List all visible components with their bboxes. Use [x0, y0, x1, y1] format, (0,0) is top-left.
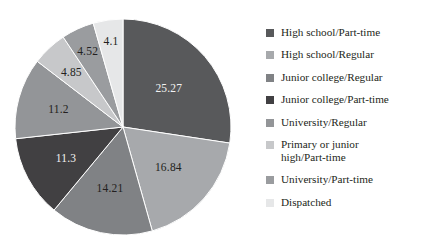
legend-item-label: Primary or junior high/Part-time	[281, 138, 359, 164]
legend-swatch-icon	[266, 51, 274, 59]
legend-item-label: Junior college/Part-time	[281, 93, 389, 106]
legend-swatch-icon	[266, 119, 274, 127]
legend-item-label: High school/Part-time	[281, 26, 380, 39]
legend-item[interactable]: University/Regular	[266, 116, 418, 129]
pie-slice-value-label: 11.3	[56, 152, 77, 164]
legend-swatch-icon	[266, 74, 274, 82]
legend-item[interactable]: Primary or junior high/Part-time	[266, 138, 418, 164]
pie-slice-value-label: 11.2	[48, 103, 69, 115]
legend-item-label: University/Part-time	[281, 173, 373, 186]
pie-slice-group	[15, 19, 231, 235]
legend-swatch-icon	[266, 141, 274, 149]
legend-item[interactable]: High school/Regular	[266, 48, 418, 61]
legend-swatch-icon	[266, 176, 274, 184]
pie-slice-value-label: 4.85	[61, 66, 82, 78]
legend-item[interactable]: Junior college/Regular	[266, 71, 418, 84]
pie-slice-value-label: 14.21	[97, 182, 124, 194]
legend-swatch-icon	[266, 199, 274, 207]
legend-item-label: University/Regular	[281, 116, 367, 129]
pie-slice-value-label: 25.27	[155, 82, 182, 94]
pie-slice-value-label: 16.84	[155, 161, 182, 173]
pie-slice-value-label: 4.1	[103, 35, 118, 47]
legend-swatch-icon	[266, 29, 274, 37]
legend-swatch-icon	[266, 96, 274, 104]
legend-item-label: Dispatched	[281, 196, 331, 209]
chart-legend: High school/Part-timeHigh school/Regular…	[266, 26, 418, 218]
legend-item-label: High school/Regular	[281, 48, 374, 61]
pie-svg: 25.2716.8414.2111.311.24.854.524.1	[13, 17, 233, 239]
pie-slice-value-label: 4.52	[77, 45, 98, 57]
legend-item-label: Junior college/Regular	[281, 71, 383, 84]
pie-chart-figure: 25.2716.8414.2111.311.24.854.524.1 High …	[0, 0, 423, 247]
pie-plot-area: 25.2716.8414.2111.311.24.854.524.1	[13, 17, 233, 239]
legend-item[interactable]: Junior college/Part-time	[266, 93, 418, 106]
legend-item[interactable]: High school/Part-time	[266, 26, 418, 39]
legend-item[interactable]: University/Part-time	[266, 173, 418, 186]
legend-item[interactable]: Dispatched	[266, 196, 418, 209]
